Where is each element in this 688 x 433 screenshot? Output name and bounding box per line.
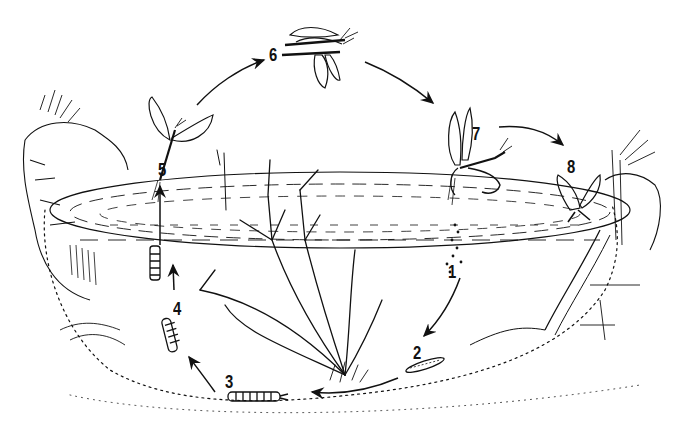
water-surface xyxy=(50,172,630,248)
stage-label-8: 8 xyxy=(567,157,575,176)
stage-label-3: 3 xyxy=(225,372,233,391)
stage-3-nymph xyxy=(228,392,288,401)
arrow-3-to-4 xyxy=(189,357,215,392)
stage-2-nymph xyxy=(405,355,446,375)
arrow-5-to-6 xyxy=(197,60,264,105)
stage-label-6: 6 xyxy=(269,45,277,64)
mayfly-life-cycle-diagram: 1 2 3 4 5 6 7 8 xyxy=(0,0,688,433)
right-bank-rocks xyxy=(470,130,660,345)
stage-label-7: 7 xyxy=(472,124,480,143)
stage-label-4: 4 xyxy=(173,299,181,318)
arrow-2-to-3 xyxy=(312,378,398,393)
cycle-arrows xyxy=(160,60,563,393)
arrow-1-to-2 xyxy=(424,278,460,336)
stage-label-5: 5 xyxy=(158,160,166,179)
arrow-7-to-8 xyxy=(499,127,563,145)
stage-5-subimago xyxy=(149,97,213,202)
stage-label-2: 2 xyxy=(413,343,421,362)
illustration-canvas xyxy=(0,0,688,433)
arrow-4-to-5 xyxy=(173,265,174,290)
stage-label-1: 1 xyxy=(448,262,456,281)
arrow-6-to-7 xyxy=(365,62,433,103)
stage-6-mating-pair xyxy=(282,28,358,89)
